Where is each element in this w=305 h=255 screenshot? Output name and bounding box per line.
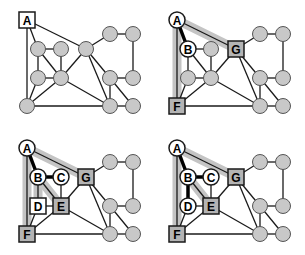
node-label: F <box>23 228 30 242</box>
unvisited-node <box>276 227 291 242</box>
unvisited-node <box>276 27 291 42</box>
unvisited-node <box>204 42 219 57</box>
unvisited-node <box>253 71 268 86</box>
node-label: A <box>173 14 182 28</box>
unvisited-node <box>126 227 141 242</box>
unvisited-node <box>276 199 291 214</box>
node-label: E <box>207 200 215 214</box>
panel-3: ABCGDEF <box>19 140 141 242</box>
unvisited-node <box>103 155 118 170</box>
node-label: B <box>34 171 43 185</box>
unvisited-node <box>31 42 46 57</box>
unvisited-node <box>31 71 46 86</box>
node-label: A <box>173 142 182 156</box>
unvisited-node <box>126 199 141 214</box>
node-label: C <box>207 171 216 185</box>
node-label: F <box>173 228 180 242</box>
dfs-figure: AABGFABCGDEFABCGDEF <box>0 0 305 255</box>
unvisited-node <box>253 155 268 170</box>
unvisited-node <box>276 71 291 86</box>
unvisited-node <box>54 71 69 86</box>
graph-edge <box>211 78 260 106</box>
node-label: F <box>173 100 180 114</box>
node-label: G <box>81 171 90 185</box>
unvisited-node <box>103 227 118 242</box>
node-label: D <box>34 200 43 214</box>
node-label: D <box>184 200 193 214</box>
panel-1: A <box>19 12 141 114</box>
unvisited-node <box>54 42 69 57</box>
node-label: A <box>23 14 32 28</box>
graph-canvas: AABGFABCGDEFABCGDEF <box>0 0 305 255</box>
unvisited-node <box>20 99 35 114</box>
unvisited-node <box>126 27 141 42</box>
node-label: C <box>57 171 66 185</box>
node-label: A <box>23 142 32 156</box>
node-label: B <box>184 43 193 57</box>
unvisited-node <box>253 227 268 242</box>
unvisited-node <box>103 71 118 86</box>
panel-4: ABCGDEF <box>169 140 291 242</box>
graph-edge <box>61 78 110 106</box>
unvisited-node <box>181 71 196 86</box>
unvisited-node <box>126 99 141 114</box>
unvisited-node <box>126 71 141 86</box>
unvisited-node <box>204 71 219 86</box>
panel-2: ABGF <box>169 12 291 114</box>
unvisited-node <box>253 199 268 214</box>
unvisited-node <box>79 42 94 57</box>
node-label: E <box>57 200 65 214</box>
unvisited-node <box>103 199 118 214</box>
unvisited-node <box>276 99 291 114</box>
unvisited-node <box>276 155 291 170</box>
unvisited-node <box>103 27 118 42</box>
node-label: G <box>231 171 240 185</box>
unvisited-node <box>253 99 268 114</box>
unvisited-node <box>253 27 268 42</box>
node-label: B <box>184 171 193 185</box>
unvisited-node <box>103 99 118 114</box>
node-label: G <box>231 43 240 57</box>
unvisited-node <box>126 155 141 170</box>
